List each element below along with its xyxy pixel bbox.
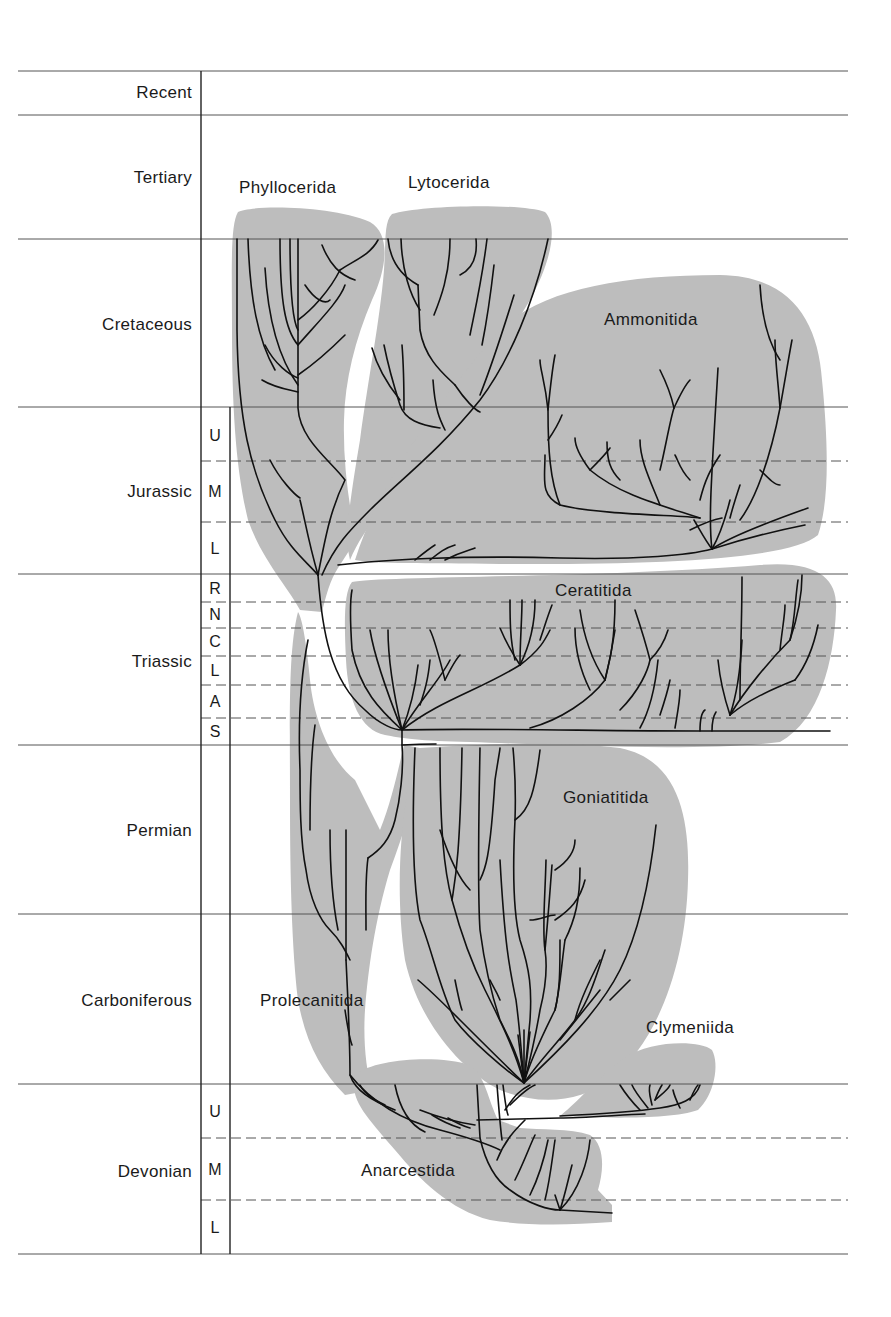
period-label-devonian: Devonian bbox=[118, 1162, 192, 1182]
jurassic-sub-upper: U bbox=[201, 427, 229, 445]
triassic-sub-anisian: A bbox=[201, 693, 229, 711]
period-label-carboniferous: Carboniferous bbox=[81, 991, 192, 1011]
triassic-sub-scythian: S bbox=[201, 723, 229, 741]
clade-label-lytocerida: Lytocerida bbox=[408, 173, 490, 193]
triassic-sub-carnian: C bbox=[201, 633, 229, 651]
period-label-jurassic: Jurassic bbox=[127, 482, 192, 502]
clade-label-prolecanitida: Prolecanitida bbox=[260, 991, 363, 1011]
period-label-triassic: Triassic bbox=[132, 652, 192, 672]
triassic-sub-norian: N bbox=[201, 606, 229, 624]
clade-label-phyllocerida: Phyllocerida bbox=[239, 178, 336, 198]
jurassic-sub-middle: M bbox=[201, 483, 229, 501]
jurassic-sub-lower: L bbox=[201, 540, 229, 558]
clade-label-ceratitida: Ceratitida bbox=[555, 581, 632, 601]
period-label-recent: Recent bbox=[136, 83, 192, 103]
ammonoid-phylogeny-diagram: Recent Tertiary Cretaceous Jurassic Tria… bbox=[0, 0, 891, 1317]
clade-label-clymeniida: Clymeniida bbox=[646, 1018, 734, 1038]
devonian-sub-middle: M bbox=[201, 1161, 229, 1179]
clade-label-goniatitida: Goniatitida bbox=[563, 788, 649, 808]
period-label-cretaceous: Cretaceous bbox=[102, 315, 192, 335]
clade-label-anarcestida: Anarcestida bbox=[361, 1161, 455, 1181]
devonian-sub-lower: L bbox=[201, 1219, 229, 1237]
triassic-sub-ladinian: L bbox=[201, 662, 229, 680]
devonian-sub-upper: U bbox=[201, 1103, 229, 1121]
clade-envelopes bbox=[232, 206, 836, 1224]
clade-label-ammonitida: Ammonitida bbox=[604, 310, 698, 330]
period-label-tertiary: Tertiary bbox=[134, 168, 192, 188]
period-label-permian: Permian bbox=[127, 821, 192, 841]
triassic-sub-rhaetian: R bbox=[201, 580, 229, 598]
